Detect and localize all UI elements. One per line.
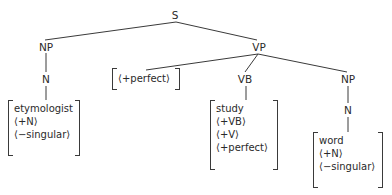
node-vp: VP [252,41,266,53]
feature-minus-singular: ⟨−singular⟩ [14,128,74,141]
feature-lexeme: etymologist [14,102,74,115]
node-subject-n: N [42,73,50,85]
feature-plus-n: ⟨+N⟩ [319,147,377,160]
aux-feature-bracket: ⟨+perfect⟩ [112,68,180,90]
feature-plus-perfect: ⟨+perfect⟩ [216,141,272,154]
feature-plus-perfect: ⟨+perfect⟩ [118,72,174,85]
feature-plus-v: ⟨+V⟩ [216,128,272,141]
feature-minus-singular: ⟨−singular⟩ [319,160,377,173]
subject-feature-bracket: etymologist ⟨+N⟩ ⟨−singular⟩ [8,100,80,156]
verb-feature-bracket: study ⟨+VB⟩ ⟨+V⟩ ⟨+perfect⟩ [210,100,278,170]
node-object-n: N [344,104,352,116]
node-subject-np: NP [39,41,53,53]
syntax-tree-diagram: S NP N etymologist ⟨+N⟩ ⟨−singular⟩ VP ⟨… [0,0,392,195]
feature-plus-n: ⟨+N⟩ [14,115,74,128]
feature-lexeme: word [319,134,377,147]
node-vb: VB [238,73,252,85]
node-s: S [172,9,179,21]
object-feature-bracket: word ⟨+N⟩ ⟨−singular⟩ [313,132,383,188]
feature-lexeme: study [216,102,272,115]
node-object-np: NP [341,73,355,85]
feature-plus-vb: ⟨+VB⟩ [216,115,272,128]
